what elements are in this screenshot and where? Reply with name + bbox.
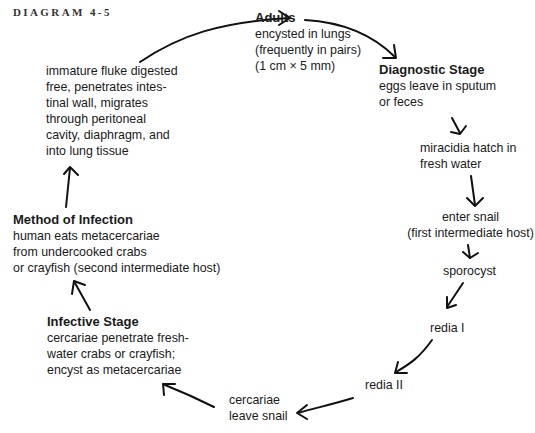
node-infective-stage: Infective Stage cercariae penetrate fres… bbox=[47, 314, 189, 378]
node-miracidia-line: fresh water bbox=[420, 156, 516, 172]
arrow-redia2-to-cercariae-icon bbox=[297, 398, 353, 419]
node-immature-line: tinal wall, migrates bbox=[46, 95, 178, 111]
node-redia-1: redia I bbox=[430, 320, 464, 336]
node-immature-line: through peritoneal bbox=[46, 111, 178, 127]
node-miracidia-line: miracidia hatch in bbox=[420, 140, 516, 156]
node-redia-2: redia II bbox=[365, 377, 403, 393]
node-diagnostic-line: or feces bbox=[379, 94, 496, 110]
node-method-line: or crayfish (second intermediate host) bbox=[13, 260, 220, 276]
arrow-method-to-immature-icon bbox=[64, 167, 78, 207]
node-cercariae-line: leave snail bbox=[229, 408, 288, 424]
node-immature-line: immature fluke digested bbox=[46, 63, 178, 79]
arrow-miracidia-to-snail-icon bbox=[467, 176, 483, 206]
arrow-cercariae-to-infective-icon bbox=[163, 384, 214, 407]
arrow-sporocyst-to-redia1-icon bbox=[447, 283, 463, 308]
node-adults: Adults encysted in lungs (frequently in … bbox=[255, 10, 361, 74]
node-cercariae-leave-snail: cercariae leave snail bbox=[229, 392, 288, 424]
node-adults-line: (frequently in pairs) bbox=[255, 42, 361, 58]
node-adults-line: (1 cm × 5 mm) bbox=[255, 58, 361, 74]
node-method-line: human eats metacercariae bbox=[13, 228, 220, 244]
node-infective-line: water crabs or crayfish; bbox=[47, 346, 189, 362]
node-enter-snail-line: enter snail bbox=[403, 209, 535, 225]
arrow-infective-to-method-icon bbox=[72, 281, 90, 310]
node-sporocyst: sporocyst bbox=[443, 263, 496, 279]
node-immature-line: free, penetrates intes- bbox=[46, 79, 178, 95]
node-infective-heading: Infective Stage bbox=[47, 314, 189, 330]
node-diagnostic-stage: Diagnostic Stage eggs leave in sputum or… bbox=[379, 62, 496, 110]
node-infective-line: encyst as metacercariae bbox=[47, 362, 189, 378]
diagram-title: DIAGRAM 4-5 bbox=[13, 6, 112, 18]
arrow-diagnostic-to-miracidia-icon bbox=[451, 118, 466, 134]
node-method-of-infection: Method of Infection human eats metacerca… bbox=[13, 212, 220, 276]
arrow-snail-to-sporocyst-icon bbox=[463, 245, 478, 258]
node-infective-line: cercariae penetrate fresh- bbox=[47, 330, 189, 346]
node-diagnostic-line: eggs leave in sputum bbox=[379, 78, 496, 94]
node-method-heading: Method of Infection bbox=[13, 212, 220, 228]
node-miracidia: miracidia hatch in fresh water bbox=[420, 140, 516, 172]
node-immature-fluke: immature fluke digested free, penetrates… bbox=[46, 63, 178, 159]
node-adults-heading: Adults bbox=[255, 10, 361, 26]
node-redia1-line: redia I bbox=[430, 320, 464, 336]
node-immature-line: into lung tissue bbox=[46, 143, 178, 159]
node-redia2-line: redia II bbox=[365, 377, 403, 393]
node-enter-snail: enter snail (first intermediate host) bbox=[403, 209, 535, 241]
arrow-redia1-to-redia2-icon bbox=[395, 340, 432, 373]
node-immature-line: cavity, diaphragm, and bbox=[46, 127, 178, 143]
node-method-line: from undercooked crabs bbox=[13, 244, 220, 260]
node-diagnostic-heading: Diagnostic Stage bbox=[379, 62, 496, 78]
node-cercariae-line: cercariae bbox=[229, 392, 288, 408]
node-adults-line: encysted in lungs bbox=[255, 26, 361, 42]
node-sporocyst-line: sporocyst bbox=[443, 263, 496, 279]
node-enter-snail-line: (first intermediate host) bbox=[403, 225, 535, 241]
